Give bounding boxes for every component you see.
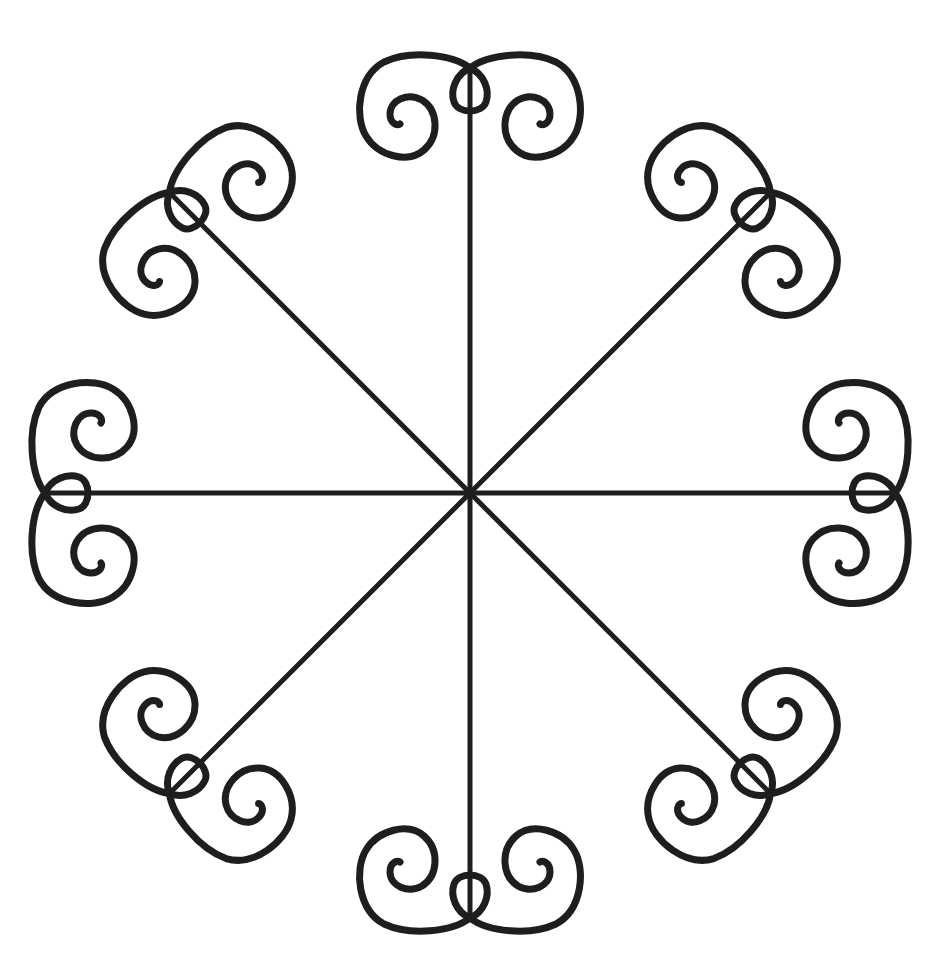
center-hub [466,489,474,497]
arm-w [32,383,470,604]
arm-s [360,493,581,931]
radial-ornament-diagram [0,0,942,975]
spoke-line [169,493,470,794]
spoke-line [169,192,470,493]
spoke-line [470,493,771,794]
spoke-line [470,192,771,493]
arm-n [360,55,581,493]
arm-e [470,383,908,604]
